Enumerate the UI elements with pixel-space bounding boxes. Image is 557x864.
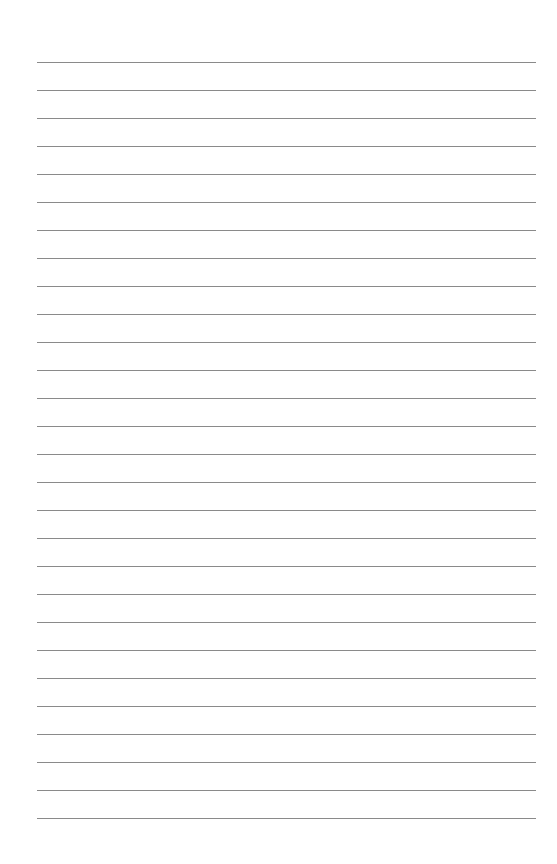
ruled-line — [37, 818, 536, 819]
ruled-line — [37, 678, 536, 679]
ruled-line — [37, 426, 536, 427]
ruled-line — [37, 258, 536, 259]
ruled-line — [37, 62, 536, 63]
ruled-line — [37, 174, 536, 175]
ruled-line — [37, 146, 536, 147]
ruled-line — [37, 594, 536, 595]
ruled-line — [37, 118, 536, 119]
ruled-line — [37, 790, 536, 791]
ruled-line — [37, 90, 536, 91]
ruled-line — [37, 510, 536, 511]
ruled-line — [37, 734, 536, 735]
ruled-line — [37, 286, 536, 287]
ruled-line — [37, 342, 536, 343]
ruled-line — [37, 398, 536, 399]
ruled-line — [37, 650, 536, 651]
ruled-line — [37, 762, 536, 763]
ruled-line — [37, 706, 536, 707]
ruled-line — [37, 202, 536, 203]
ruled-line — [37, 314, 536, 315]
ruled-line — [37, 538, 536, 539]
ruled-line — [37, 566, 536, 567]
lined-paper-page — [0, 0, 557, 864]
ruled-line — [37, 454, 536, 455]
ruled-line — [37, 370, 536, 371]
ruled-line — [37, 230, 536, 231]
ruled-line — [37, 482, 536, 483]
ruled-line — [37, 622, 536, 623]
